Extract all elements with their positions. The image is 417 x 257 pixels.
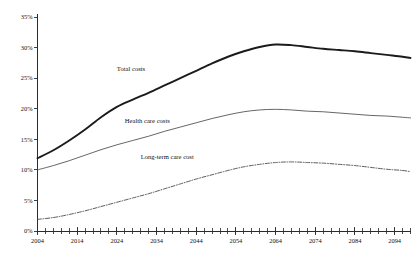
series-label-total-costs: Total costs [117,65,146,72]
series-line-long-term-care-cost [38,162,411,219]
x-tick-label: 2094 [388,237,402,244]
y-tick-label: 10% [21,166,33,173]
x-tick-label: 2084 [349,237,363,244]
y-tick-label: 20% [21,105,33,112]
x-tick-label: 2074 [309,237,323,244]
y-tick-label: 5% [24,197,33,204]
y-axis-ticks: 35%30%25%20%15%10%5%0% [21,13,38,234]
series-line-total-costs [38,44,411,158]
series-label-long-term-care-cost: Long-term care cost [141,153,194,160]
chart-container: 35%30%25%20%15%10%5%0% 20042014202420342… [0,0,417,257]
x-tick-label: 2064 [269,237,283,244]
x-axis-ticks: 2004201420242034204420542064207420842094 [31,227,402,244]
x-tick-label: 2024 [110,237,124,244]
line-chart: 35%30%25%20%15%10%5%0% 20042014202420342… [0,0,417,257]
y-tick-label: 30% [21,44,33,51]
y-tick-label: 15% [21,136,33,143]
y-tick-label: 0% [24,227,33,234]
x-tick-label: 2004 [31,237,45,244]
series-line-health-care-costs [38,109,411,170]
x-tick-label: 2054 [230,237,244,244]
series-label-health-care-costs: Health care costs [125,117,170,124]
x-tick-label: 2034 [150,237,164,244]
y-tick-label: 25% [21,74,33,81]
series-curves [38,44,411,219]
x-tick-label: 2044 [190,237,204,244]
x-tick-label: 2014 [71,237,85,244]
series-annotations: Total costsHealth care costsLong-term ca… [117,65,194,160]
y-tick-label: 35% [21,13,33,20]
